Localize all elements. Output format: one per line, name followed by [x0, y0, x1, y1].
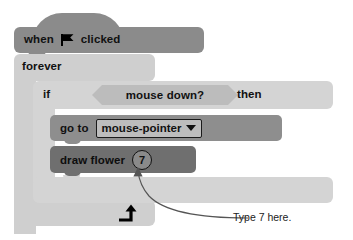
block-go-to[interactable]: go to mouse-pointer [50, 115, 282, 141]
if-bottom-bar [33, 177, 333, 203]
when-label: when [24, 33, 54, 45]
draw-flower-label: draw flower [60, 154, 125, 166]
if-left-arm [33, 101, 55, 187]
clicked-label: clicked [81, 33, 121, 45]
mouse-down-label: mouse down? [126, 89, 204, 101]
draw-flower-number-input[interactable]: 7 [132, 150, 152, 170]
hat-block-text-row: when clicked [24, 32, 121, 46]
if-label: if [43, 88, 50, 100]
block-draw-flower[interactable]: draw flower 7 [50, 146, 196, 173]
go-to-target-dropdown[interactable]: mouse-pointer [96, 119, 203, 138]
then-label: then [237, 88, 262, 100]
chevron-down-icon [186, 125, 196, 131]
green-flag-icon [60, 33, 75, 47]
block-when-flag-clicked[interactable]: when clicked [14, 13, 204, 53]
boolean-mouse-down[interactable]: mouse down? [92, 85, 238, 105]
scratch-script-canvas: when clicked forever if [0, 0, 353, 240]
go-to-label: go to [60, 122, 89, 134]
loop-arrow-icon [118, 204, 139, 222]
draw-flower-number-value: 7 [139, 154, 145, 166]
go-to-target-value: mouse-pointer [102, 122, 182, 134]
annotation-type-7-here: Type 7 here. [233, 211, 291, 223]
forever-label: forever [22, 60, 62, 72]
